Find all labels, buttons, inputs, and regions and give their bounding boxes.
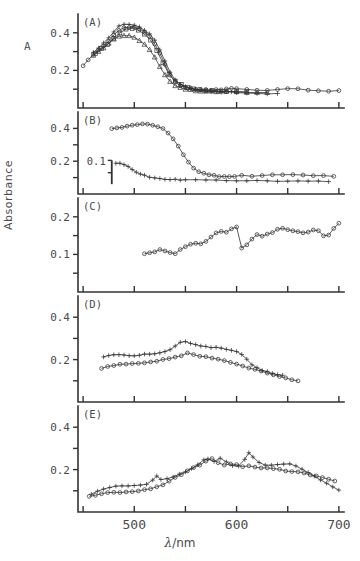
- series-d-crosses: [101, 339, 285, 377]
- x-axis-title: λ/nm: [0, 536, 360, 550]
- spectra-plot: 0.20.4(A)0.20.4(B)0.10.10.2(C)0.20.4(D)0…: [0, 0, 360, 561]
- y-tick-label: 0.1: [50, 248, 70, 261]
- panel-e: 0.20.4(E): [50, 406, 344, 512]
- figure-container: A Absorbance λ/nm 0.20.4(A)0.20.4(B)0.10…: [0, 0, 360, 561]
- y-tick-label: 0.4: [50, 421, 70, 434]
- x-tick-label: 500: [123, 517, 146, 532]
- y-tick-label: 0.2: [50, 155, 70, 168]
- y-tick-label: 0.2: [50, 464, 70, 477]
- panel-label-b: (B): [83, 114, 102, 126]
- panel-b: 0.20.4(B)0.1: [50, 112, 344, 194]
- panel-d: 0.20.4(D): [50, 296, 344, 402]
- panel-label-d: (D): [83, 298, 102, 310]
- y-tick-label: 0.2: [50, 64, 70, 77]
- x-tick-label: 700: [327, 517, 350, 532]
- y-tick-label: 0.2: [50, 354, 70, 367]
- series-b-circles: [110, 122, 336, 179]
- series-c-circles: [143, 221, 341, 255]
- x-tick-label: 600: [225, 517, 248, 532]
- y-tick-label: 0.4: [50, 122, 70, 135]
- y-tick-label: 0.2: [50, 211, 70, 224]
- inset-scale-bar-label: 0.1: [87, 155, 106, 167]
- panel-a-outer-label: A: [24, 40, 31, 53]
- y-tick-label: 0.4: [50, 311, 70, 324]
- panel-label-a: (A): [83, 16, 102, 28]
- series-e-circles: [87, 457, 336, 499]
- series-a-triangles: [91, 33, 270, 94]
- series-e-crosses: [89, 450, 341, 496]
- panel-a: 0.20.4(A): [50, 14, 344, 108]
- inset-scale-bar: 0.1: [87, 155, 112, 184]
- series-b-crosses: [114, 161, 331, 184]
- panel-label-c: (C): [83, 200, 102, 212]
- panel-c: 0.10.2(C): [50, 198, 344, 292]
- y-axis-title: Absorbance: [2, 160, 15, 230]
- panel-label-e: (E): [83, 408, 102, 420]
- x-axis-unit: /nm: [172, 536, 195, 550]
- y-tick-label: 0.4: [50, 27, 70, 40]
- lambda-symbol: λ: [165, 536, 173, 550]
